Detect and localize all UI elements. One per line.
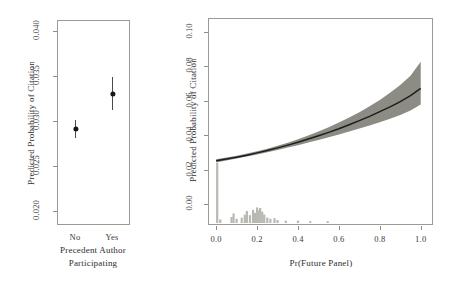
right-y-tick-mark <box>204 135 208 136</box>
right-x-tick-label: 0.2 <box>251 234 262 244</box>
left-y-tick-mark <box>53 31 57 32</box>
left-x-axis-title-line1: Precedent Author <box>60 245 126 255</box>
right-x-tick-mark <box>421 226 422 230</box>
right-y-tick-label: 0.02 <box>184 156 194 182</box>
right-x-tick-mark <box>339 226 340 230</box>
right-y-tick-label: 0.04 <box>184 121 194 147</box>
left-y-tick-label: 0.035 <box>31 62 41 88</box>
right-y-tick-mark <box>204 32 208 33</box>
right-y-tick-mark <box>204 66 208 67</box>
right-x-tick-label: 1.0 <box>415 234 426 244</box>
right-x-tick-label: 0.6 <box>333 234 344 244</box>
left-y-tick-mark <box>53 121 57 122</box>
right-x-tick-label: 0.0 <box>211 234 222 244</box>
right-y-tick-label: 0.10 <box>184 18 194 44</box>
right-y-tick-label: 0.08 <box>184 52 194 78</box>
right-x-tick-mark <box>257 226 258 230</box>
right-plot-area <box>175 0 450 288</box>
left-y-tick-mark <box>53 211 57 212</box>
right-y-tick-label: 0.00 <box>184 190 194 216</box>
left-y-tick-mark <box>53 76 57 77</box>
confidence-band <box>216 62 421 163</box>
left-y-tick-label: 0.030 <box>31 107 41 133</box>
right-x-tick-mark <box>298 226 299 230</box>
left-y-tick-label: 0.020 <box>31 197 41 223</box>
left-x-axis-title-line2: Participating <box>69 258 118 268</box>
rug-histogram <box>216 163 329 223</box>
left-plot-frame <box>57 20 130 225</box>
right-x-tick-mark <box>380 226 381 230</box>
panel-future-panel: Predicted Probability of Citation 0.000.… <box>175 0 450 288</box>
right-x-tick-mark <box>216 226 217 230</box>
right-y-tick-label: 0.06 <box>184 87 194 113</box>
right-x-axis-title: Pr(Future Panel) <box>290 258 353 268</box>
right-y-tick-mark <box>204 101 208 102</box>
panel-precedent-author: Predicted Probability of Citation 0.0200… <box>0 0 175 288</box>
left-y-tick-label: 0.025 <box>31 152 41 178</box>
left-y-tick-label: 0.040 <box>31 17 41 43</box>
left-xtick-no: No <box>70 232 81 242</box>
right-y-tick-mark <box>204 170 208 171</box>
figure-canvas: Predicted Probability of Citation 0.0200… <box>0 0 450 288</box>
right-x-tick-label: 0.4 <box>292 234 303 244</box>
right-y-tick-mark <box>204 204 208 205</box>
left-xtick-yes: Yes <box>106 232 119 242</box>
left-y-tick-mark <box>53 166 57 167</box>
right-x-tick-label: 0.8 <box>374 234 385 244</box>
